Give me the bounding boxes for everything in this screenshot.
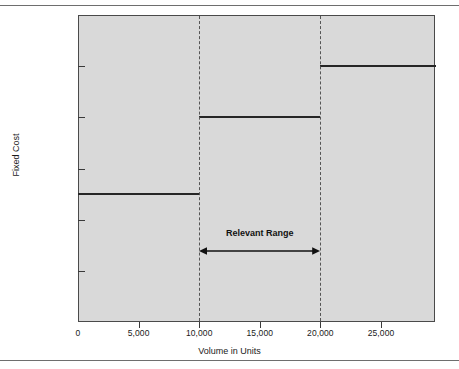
step-segment: [320, 65, 435, 67]
x-tick-label: 5,000: [128, 328, 150, 338]
x-tick-mark: [381, 322, 382, 328]
relevant-range-arrow-icon: [199, 246, 320, 256]
x-tick-mark: [199, 322, 200, 328]
y-tick-mark: [78, 66, 85, 67]
x-tick-label: 20,000: [307, 328, 334, 338]
step-segment: [78, 193, 199, 195]
x-axis-title: Volume in Units: [0, 346, 459, 356]
y-axis-title: Fixed Cost: [11, 115, 21, 195]
x-tick-mark: [320, 322, 321, 328]
y-tick-mark: [78, 117, 85, 118]
fixed-cost-step-chart: Fixed Cost Volume in Units $120,000100,0…: [0, 0, 459, 369]
x-tick-label: 25,000: [368, 328, 395, 338]
x-tick-label: 10,000: [186, 328, 213, 338]
x-tick-mark: [139, 322, 140, 328]
relevant-range-label: Relevant Range: [226, 228, 294, 238]
range-boundary-upper: [320, 16, 321, 321]
x-tick-label: 0: [76, 328, 81, 338]
bottom-divider-rule: [0, 360, 459, 361]
y-tick-mark: [78, 271, 85, 272]
x-tick-label: 15,000: [246, 328, 273, 338]
step-segment: [199, 116, 320, 118]
range-boundary-lower: [199, 16, 200, 321]
top-divider-rule: [0, 5, 459, 6]
y-tick-mark: [78, 220, 85, 221]
y-tick-mark: [78, 169, 85, 170]
plot-area: [78, 15, 435, 322]
x-tick-mark: [260, 322, 261, 328]
